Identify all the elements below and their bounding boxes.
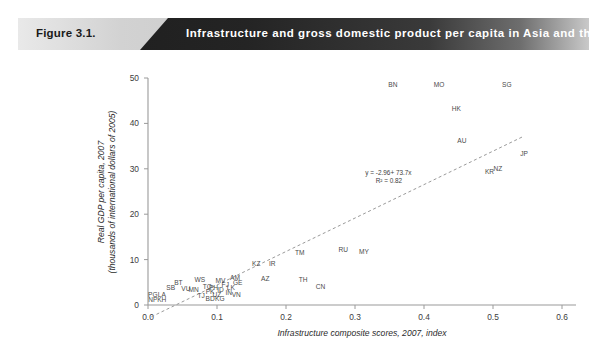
x-axis-ticks: 0.00.10.20.30.40.50.6 (142, 305, 568, 322)
data-point-tm: TM (295, 249, 305, 256)
data-point-cn: CN (316, 283, 326, 290)
figure-banner: Figure 3.1. Infrastructure and gross dom… (18, 18, 589, 50)
x-tick-label: 0.2 (280, 312, 292, 322)
y-tick-label: 0 (134, 300, 139, 310)
y-tick-label: 50 (130, 73, 140, 83)
x-tick-label: 0.4 (418, 312, 430, 322)
y-tick-label: 20 (130, 209, 140, 219)
data-point-kh: KH (157, 296, 166, 303)
x-tick-label: 0.5 (487, 312, 499, 322)
data-point-nz: NZ (493, 165, 502, 172)
data-point-labels: PGLANPKHSBBTVUMNTJBDKGUZWSTOPHPKIDINVNMV… (148, 81, 528, 303)
x-tick-label: 0.6 (556, 312, 568, 322)
data-point-jp: JP (520, 150, 528, 157)
x-tick-label: 0.1 (211, 312, 223, 322)
data-point-vn: VN (232, 291, 241, 298)
y-axis-title-line1: Real GDP per capita, 2007 (96, 140, 106, 244)
data-point-th: TH (299, 276, 308, 283)
data-point-pk: PK (206, 288, 215, 295)
data-point-sg: SG (502, 81, 512, 88)
data-point-au: AU (457, 137, 466, 144)
data-point-hk: HK (452, 105, 462, 112)
data-point-ge: GE (233, 279, 243, 286)
scatter-chart: 01020304050 0.00.10.20.30.40.50.6 PGLANP… (0, 52, 607, 345)
figure-title: Infrastructure and gross domestic produc… (186, 27, 589, 39)
regression-annotation: y = -2.96+ 73.7xR² = 0.82 (365, 169, 412, 184)
data-point-ru: RU (339, 246, 349, 253)
y-axis-ticks: 01020304050 (130, 73, 148, 310)
plot-canvas: 01020304050 0.00.10.20.30.40.50.6 PGLANP… (0, 52, 607, 345)
data-point-ir: IR (269, 260, 276, 267)
x-tick-label: 0.0 (142, 312, 154, 322)
data-point-az: AZ (261, 275, 269, 282)
data-point-my: MY (359, 248, 369, 255)
annotation-2: R² = 0.82 (376, 177, 403, 184)
data-point-kz: KZ (252, 260, 260, 267)
x-axis-title: Infrastructure composite scores, 2007, i… (277, 328, 447, 338)
y-tick-label: 10 (130, 255, 140, 265)
figure-number-label: Figure 3.1. (36, 27, 96, 39)
y-tick-label: 30 (130, 164, 140, 174)
y-axis-title-line2: (thousands of international dollars of 2… (107, 110, 117, 273)
x-tick-label: 0.3 (349, 312, 361, 322)
y-tick-label: 40 (130, 118, 140, 128)
data-point-bn: BN (388, 81, 397, 88)
data-point-mo: MO (434, 81, 445, 88)
data-point-tj: TJ (197, 292, 204, 299)
